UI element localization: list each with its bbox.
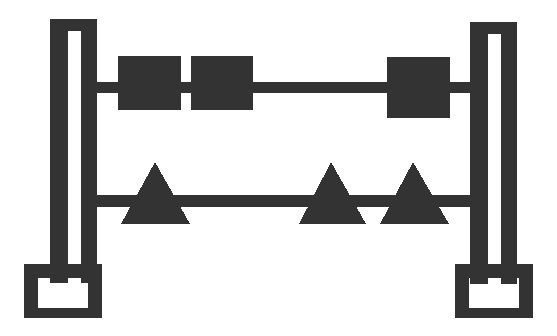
square-1	[118, 56, 181, 110]
figure-canvas	[0, 0, 557, 336]
gantry-figure	[0, 0, 557, 336]
square-2	[191, 56, 253, 110]
square-3	[387, 57, 450, 118]
